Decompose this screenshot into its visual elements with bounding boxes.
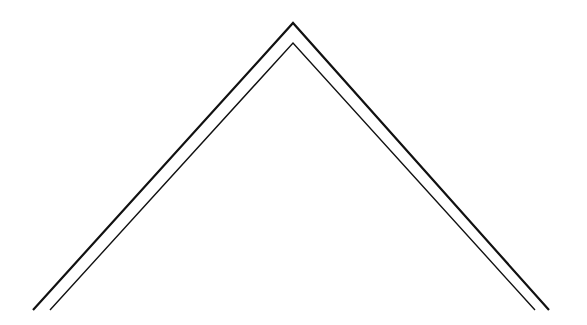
chevron-diagram [0, 0, 587, 325]
outer-chevron-line [33, 23, 549, 310]
inner-chevron-line [50, 43, 535, 310]
